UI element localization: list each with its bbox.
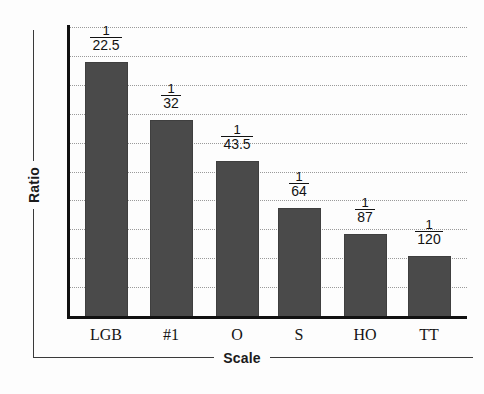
bar (344, 234, 387, 318)
x-axis-line (67, 316, 467, 319)
value-denominator: 32 (161, 95, 181, 111)
value-numerator: 1 (289, 170, 309, 184)
bar-value-label: 164 (269, 170, 329, 199)
bar-value-label: 187 (335, 196, 395, 225)
value-denominator: 64 (289, 183, 309, 199)
value-denominator: 43.5 (221, 136, 252, 152)
gridline (70, 85, 467, 86)
value-numerator: 1 (415, 218, 442, 232)
y-axis-title-label: Ratio (26, 161, 42, 209)
y-axis-line (67, 25, 70, 319)
bar-value-label: 143.5 (207, 123, 267, 152)
value-numerator: 1 (355, 196, 375, 210)
gridline (70, 114, 467, 115)
axis-guide-corner (33, 338, 34, 358)
bar-value-label: 1120 (399, 218, 459, 247)
scale-axis-guide-line (33, 357, 473, 358)
x-axis-title: Scale (0, 347, 484, 369)
value-denominator: 87 (355, 209, 375, 225)
bar (278, 208, 321, 318)
value-denominator: 22.5 (90, 37, 121, 53)
bar (150, 120, 193, 318)
bar-value-label: 122.5 (76, 24, 136, 53)
bar (408, 256, 451, 318)
gridline (70, 143, 467, 144)
bar-value-label: 132 (141, 82, 201, 111)
chart-figure: Ratio Scale 122.5132143.51641871120 LGB#… (0, 0, 484, 394)
value-numerator: 1 (90, 24, 121, 38)
gridline (70, 200, 467, 201)
x-axis-title-label: Scale (214, 350, 270, 366)
value-numerator: 1 (221, 123, 252, 137)
gridline (70, 56, 467, 57)
bar (216, 161, 259, 318)
x-tick-label-tt: TT (389, 326, 469, 344)
bar (85, 62, 128, 318)
y-axis-title: Ratio (14, 150, 54, 220)
value-numerator: 1 (161, 82, 181, 96)
plot-area (67, 25, 467, 321)
value-denominator: 120 (415, 231, 442, 247)
